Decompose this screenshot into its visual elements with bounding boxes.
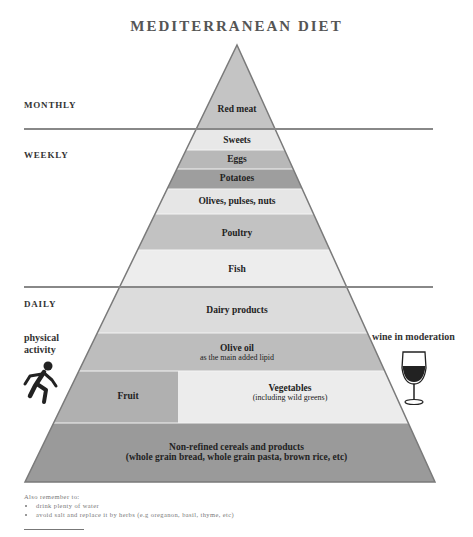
- tier-label-dairy: Dairy products: [157, 305, 317, 315]
- wine-label: wine in moderation: [372, 331, 455, 343]
- tier-label-cereals: Non-refined cereals and products (whole …: [60, 442, 413, 462]
- tier-label-sweets: Sweets: [187, 135, 287, 145]
- wine-glass-icon: [402, 352, 426, 405]
- tier-label-olives: Olives, pulses, nuts: [157, 196, 317, 206]
- tier-red-meat: [0, 45, 473, 130]
- physical-activity-label: physical activity: [24, 332, 80, 356]
- tier-label-red-meat: Red meat: [187, 104, 287, 114]
- tier-label-vegetables: Vegetables (including wild greens): [210, 383, 370, 402]
- running-person-icon: [25, 362, 56, 403]
- footer-item: avoid salt and replace it by herbs (e.g …: [36, 510, 234, 519]
- footer-rule: [24, 529, 84, 530]
- tier-label-poultry: Poultry: [187, 228, 287, 238]
- footer-list: drink plenty of water avoid salt and rep…: [24, 501, 234, 519]
- cereals-subtitle: (whole grain bread, whole grain pasta, b…: [60, 452, 413, 462]
- tier-label-fruit: Fruit: [98, 391, 158, 401]
- frequency-label-monthly: MONTHLY: [24, 100, 76, 110]
- vegetables-subtitle: (including wild greens): [210, 393, 370, 402]
- footer-notes: Also remember to: drink plenty of water …: [24, 492, 234, 519]
- footer-heading: Also remember to:: [24, 492, 234, 501]
- frequency-label-weekly: WEEKLY: [24, 150, 68, 160]
- frequency-label-daily: DAILY: [24, 299, 56, 309]
- olive-oil-subtitle: as the main added lipid: [137, 353, 337, 362]
- olive-oil-title: Olive oil: [220, 343, 254, 353]
- tier-label-olive-oil: Olive oil as the main added lipid: [137, 343, 337, 362]
- footer-item: drink plenty of water: [36, 501, 234, 510]
- tier-label-potatoes: Potatoes: [187, 173, 287, 183]
- tier-label-eggs: Eggs: [187, 154, 287, 164]
- cereals-title: Non-refined cereals and products: [169, 442, 304, 452]
- vegetables-title: Vegetables: [269, 383, 312, 393]
- tier-label-fish: Fish: [187, 264, 287, 274]
